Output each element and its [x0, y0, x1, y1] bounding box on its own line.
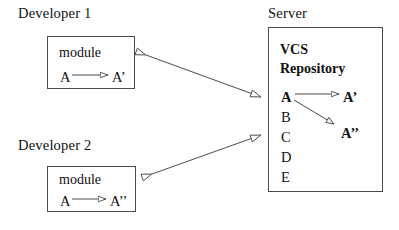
repository-revision-c: C — [281, 130, 291, 145]
connector-developer1-server — [146, 55, 261, 97]
developer2-module-title: module — [59, 173, 101, 187]
developer2-caption: Developer 2 — [18, 138, 91, 153]
repository-revision-d: D — [281, 150, 291, 165]
developer2-node-from: A — [60, 194, 70, 209]
repository-revision-b: B — [281, 110, 291, 125]
developer2-node-to: A’’ — [110, 194, 127, 209]
developer1-node-to: A’ — [112, 70, 126, 85]
repository-revision-a: A — [281, 90, 291, 105]
connector-developer2-server — [152, 135, 261, 174]
server-caption: Server — [268, 6, 307, 21]
repository-title-line2: Repository — [280, 62, 345, 76]
repository-derived-a-prime: A’ — [343, 90, 357, 105]
repository-revision-e: E — [281, 170, 290, 185]
repository-derived-a-double-prime: A’’ — [341, 126, 359, 141]
developer1-node-from: A — [60, 70, 70, 85]
diagram-canvas: Developer 1 module A A’ Developer 2 modu… — [0, 0, 399, 230]
developer1-caption: Developer 1 — [18, 6, 91, 21]
developer1-module-title: module — [59, 46, 101, 60]
repository-title-line1: VCS — [280, 43, 308, 57]
